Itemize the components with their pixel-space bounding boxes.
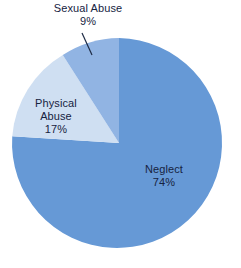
pie-label-sexual-abuse-name: Sexual Abuse xyxy=(28,2,148,15)
pie-chart: Sexual Abuse 9% Physical Abuse 17% Negle… xyxy=(0,0,241,268)
pie-label-physical-abuse-name-line1: Physical xyxy=(13,97,99,110)
pie-label-physical-abuse: Physical Abuse 17% xyxy=(13,97,99,136)
pie-label-neglect-pct: 74% xyxy=(124,176,204,189)
pie-label-neglect: Neglect 74% xyxy=(124,163,204,189)
pie-label-physical-abuse-pct: 17% xyxy=(13,123,99,136)
pie-label-physical-abuse-name-line2: Abuse xyxy=(13,110,99,123)
pie-label-neglect-name: Neglect xyxy=(124,163,204,176)
pie-label-sexual-abuse-pct: 9% xyxy=(28,15,148,28)
pie-label-sexual-abuse: Sexual Abuse 9% xyxy=(28,2,148,28)
